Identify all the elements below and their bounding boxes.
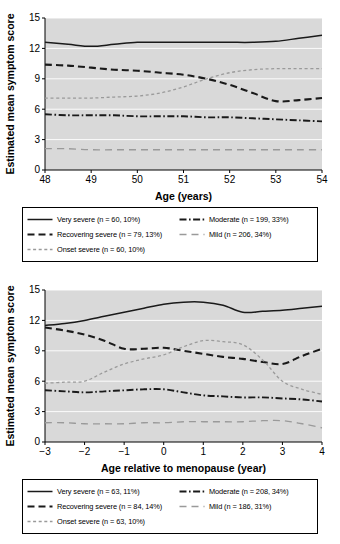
x-tick-label: −1 <box>118 446 130 457</box>
legend-entry: Mild (n = 186, 31%) <box>179 502 321 511</box>
legend-line-key <box>179 215 205 224</box>
legend-line-key <box>27 517 53 526</box>
legend-line-key <box>27 215 53 224</box>
x-tick-label: 48 <box>39 174 51 185</box>
legend-line-key <box>179 502 205 511</box>
legend-line-key <box>27 230 53 239</box>
legend-key-icon <box>179 215 205 224</box>
x-axis-title: Age relative to menopause (year) <box>101 462 266 474</box>
y-axis-title: Estimated mean symptom score <box>4 285 16 446</box>
legend-label: Mild (n = 186, 31%) <box>209 502 271 511</box>
legend-entry: Moderate (n = 208, 34%) <box>179 487 321 496</box>
legend-key-icon <box>27 487 53 496</box>
x-axis-title: Age (years) <box>155 190 212 202</box>
legend-label: Mild (n = 206, 34%) <box>209 230 271 239</box>
legend-entry: Moderate (n = 199, 33%) <box>179 215 321 224</box>
legend-key-icon <box>27 230 53 239</box>
x-tick-label: 0 <box>161 446 167 457</box>
x-tick-label: 4 <box>319 446 325 457</box>
chart-panel-menopause: 03691215−3−2−101234Age relative to menop… <box>0 272 340 544</box>
legend-key-icon <box>179 230 205 239</box>
x-tick-label: 50 <box>132 174 144 185</box>
y-tick-label: 15 <box>29 12 41 23</box>
legend-label: Recovering severe (n = 79, 13%) <box>57 230 162 239</box>
legend-entry: Very severe (n = 63, 11%) <box>27 487 179 496</box>
y-tick-label: 6 <box>34 104 40 115</box>
legend-entry: Mild (n = 206, 34%) <box>179 230 321 239</box>
x-tick-label: −3 <box>39 446 51 457</box>
legend-key-icon <box>27 517 53 526</box>
legend-entry: Very severe (n = 60, 10%) <box>27 215 179 224</box>
y-tick-label: 12 <box>29 315 41 326</box>
legend-entry: Recovering severe (n = 79, 13%) <box>27 230 179 239</box>
x-tick-label: 3 <box>280 446 286 457</box>
legend-line-key <box>27 245 53 254</box>
legend-key-icon <box>179 502 205 511</box>
legend-line-key <box>27 487 53 496</box>
legend-key-icon <box>27 245 53 254</box>
legend-line-key <box>27 502 53 511</box>
plot-background <box>45 290 322 442</box>
legend-label: Moderate (n = 199, 33%) <box>209 215 289 224</box>
legend-line-key <box>179 487 205 496</box>
menopause-chart-legend: Very severe (n = 63, 11%)Moderate (n = 2… <box>22 479 318 534</box>
y-tick-label: 9 <box>34 345 40 356</box>
age-chart-plot: 0369121548495051525354Age (years)Estimat… <box>0 0 340 205</box>
legend-label: Onset severe (n = 63, 10%) <box>57 517 145 526</box>
menopause-chart-plot: 03691215−3−2−101234Age relative to menop… <box>0 272 340 477</box>
legend-label: Recovering severe (n = 84, 14%) <box>57 502 162 511</box>
y-tick-label: 6 <box>34 376 40 387</box>
legend-key-icon <box>179 487 205 496</box>
legend-entry: Onset severe (n = 63, 10%) <box>27 517 179 526</box>
y-tick-label: 9 <box>34 73 40 84</box>
x-tick-label: 53 <box>270 174 282 185</box>
legend-label: Very severe (n = 63, 11%) <box>57 487 140 496</box>
x-tick-label: 52 <box>224 174 236 185</box>
x-tick-label: 49 <box>86 174 98 185</box>
x-tick-label: 1 <box>201 446 207 457</box>
legend-label: Onset severe (n = 60, 10%) <box>57 245 145 254</box>
legend-entry: Onset severe (n = 60, 10%) <box>27 245 179 254</box>
x-tick-label: 2 <box>240 446 246 457</box>
y-tick-label: 3 <box>34 134 40 145</box>
legend-key-icon <box>27 215 53 224</box>
x-tick-label: −2 <box>79 446 91 457</box>
legend-line-key <box>179 230 205 239</box>
legend-key-icon <box>27 502 53 511</box>
y-axis-title: Estimated mean symptom score <box>4 13 16 174</box>
legend-label: Moderate (n = 208, 34%) <box>209 487 289 496</box>
y-tick-label: 3 <box>34 406 40 417</box>
x-tick-label: 54 <box>316 174 328 185</box>
y-tick-label: 12 <box>29 43 41 54</box>
legend-entry: Recovering severe (n = 84, 14%) <box>27 502 179 511</box>
y-tick-label: 15 <box>29 284 41 295</box>
chart-panel-age: 0369121548495051525354Age (years)Estimat… <box>0 0 340 272</box>
legend-label: Very severe (n = 60, 10%) <box>57 215 140 224</box>
age-chart-legend: Very severe (n = 60, 10%)Moderate (n = 1… <box>22 207 318 262</box>
x-tick-label: 51 <box>178 174 190 185</box>
